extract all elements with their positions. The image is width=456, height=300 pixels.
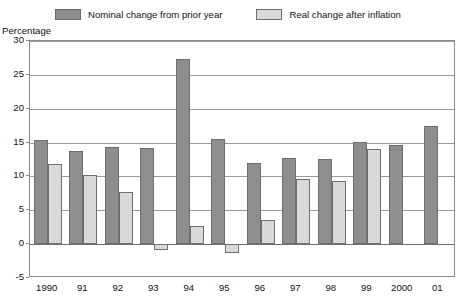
bar-93-nominal <box>140 148 154 244</box>
y-axis-tick-30: 30 <box>0 34 24 45</box>
y-axis-tickmark-15 <box>26 142 29 143</box>
y-axis-tick-0: 0 <box>0 237 24 248</box>
chart-legend: Nominal change from prior year Real chan… <box>0 4 456 24</box>
legend-label-real: Real change after inflation <box>289 9 400 20</box>
bar-98-nominal <box>318 159 332 244</box>
bar-99-nominal <box>353 142 367 244</box>
gridline-30 <box>30 41 454 42</box>
bar-1990-real <box>48 164 62 245</box>
bar-99-real <box>367 149 381 244</box>
bar-1990-nominal <box>34 140 48 244</box>
bar-96-real <box>261 220 275 244</box>
bar-92-nominal <box>105 147 119 245</box>
y-axis-tickmark--5 <box>26 277 29 278</box>
legend-swatch-real <box>256 9 282 20</box>
bar-97-real <box>296 179 310 244</box>
y-axis-tick--5: -5 <box>0 271 24 282</box>
y-axis-tickmark-10 <box>26 175 29 176</box>
y-axis-tick-25: 25 <box>0 68 24 79</box>
gridline-20 <box>30 109 454 110</box>
bar-95-real <box>225 244 239 253</box>
x-axis-tick-01: 01 <box>412 282 456 293</box>
y-axis-tickmark-0 <box>26 243 29 244</box>
bar-92-real <box>119 192 133 244</box>
y-axis-tick-10: 10 <box>0 169 24 180</box>
chart-plot-inner <box>30 41 454 276</box>
y-axis-tickmark-25 <box>26 74 29 75</box>
y-axis-tickmark-20 <box>26 108 29 109</box>
chart-plot-area <box>29 40 455 277</box>
y-axis-tickmark-30 <box>26 40 29 41</box>
y-axis-tick-20: 20 <box>0 102 24 113</box>
gridline-0 <box>30 244 454 245</box>
gridline-15 <box>30 143 454 144</box>
legend-swatch-nominal <box>55 9 81 20</box>
bar-96-nominal <box>247 163 261 244</box>
legend-item-nominal: Nominal change from prior year <box>55 9 222 20</box>
bar-98-real <box>332 181 346 244</box>
legend-item-real: Real change after inflation <box>256 9 400 20</box>
gridline-25 <box>30 75 454 76</box>
bar-91-nominal <box>69 151 83 244</box>
y-axis-tick-5: 5 <box>0 203 24 214</box>
legend-label-nominal: Nominal change from prior year <box>88 9 222 20</box>
bar-95-nominal <box>211 139 225 244</box>
bar-93-real <box>154 244 168 249</box>
bar-97-nominal <box>282 158 296 244</box>
bar-01-nominal <box>424 126 438 244</box>
bar-94-nominal <box>176 59 190 244</box>
y-axis-tick-15: 15 <box>0 136 24 147</box>
bar-94-real <box>190 226 204 244</box>
y-axis-tickmark-5 <box>26 209 29 210</box>
bar-91-real <box>83 175 97 244</box>
bar-2000-nominal <box>389 145 403 244</box>
